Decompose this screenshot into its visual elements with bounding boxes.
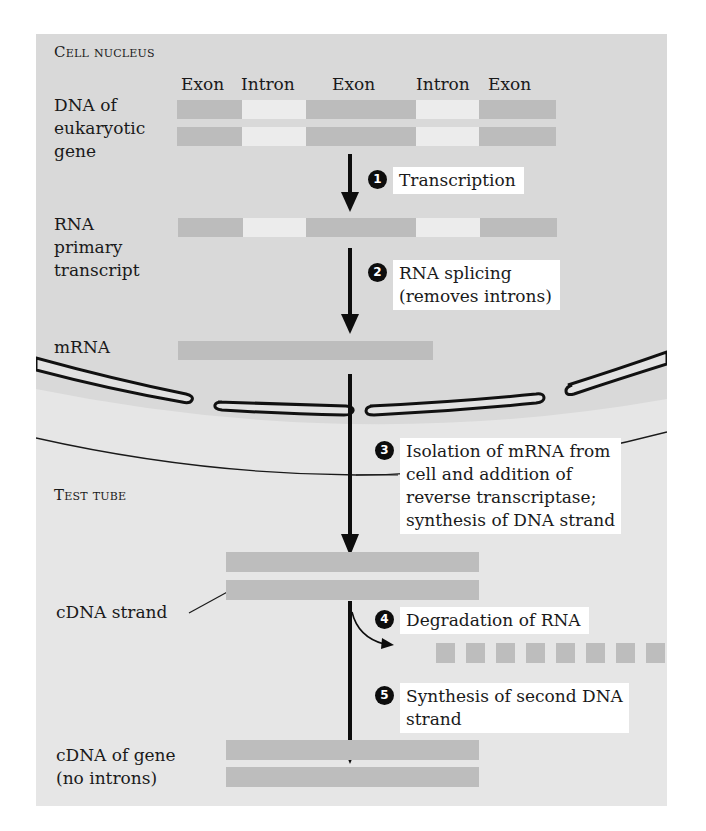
mrna-strand: [178, 341, 433, 360]
step-caption: RNA splicing (removes introns): [393, 260, 560, 310]
step-number-badge: 1: [368, 170, 387, 189]
mrna-label: mRNA: [54, 336, 110, 359]
step-number-badge: 3: [375, 441, 394, 460]
segment-label-intron-2: Intron: [416, 73, 470, 96]
dna-gene-label: DNA of eukaryotic gene: [54, 94, 145, 163]
segment-label-intron-1: Intron: [241, 73, 295, 96]
step-caption: Isolation of mRNA from cell and addition…: [400, 438, 621, 534]
step-2-rna-splicing: 2 RNA splicing (removes introns): [368, 260, 560, 310]
mrna-template-strand: [226, 552, 479, 572]
cdna-strand-label: cDNA strand: [56, 601, 167, 624]
cdna-double-strand-bottom: [226, 767, 479, 787]
step-3-reverse-transcription: 3 Isolation of mRNA from cell and additi…: [375, 438, 621, 534]
step-number-badge: 2: [368, 263, 387, 282]
rna-primary-label: RNA primary transcript: [54, 213, 140, 282]
step-4-rna-degradation: 4 Degradation of RNA: [375, 607, 589, 634]
step-caption: Degradation of RNA: [400, 607, 589, 634]
segment-label-exon-3: Exon: [488, 73, 531, 96]
cdna-first-strand: [226, 580, 479, 600]
cdna-gene-label: cDNA of gene (no introns): [56, 744, 176, 790]
test-tube-label: Test tube: [54, 484, 126, 507]
segment-label-exon-2: Exon: [332, 73, 375, 96]
step-number-badge: 5: [375, 686, 394, 705]
segment-label-exon-1: Exon: [181, 73, 224, 96]
step-caption: Synthesis of second DNA strand: [400, 683, 629, 733]
step-1-transcription: 1 Transcription: [368, 167, 524, 194]
step-5-second-strand-synthesis: 5 Synthesis of second DNA strand: [375, 683, 629, 733]
nucleus-label: Cell nucleus: [54, 41, 155, 64]
step-number-badge: 4: [375, 610, 394, 629]
cdna-double-strand-top: [226, 740, 479, 760]
diagram-panel: Cell nucleus Test tube Exon Intron Exon …: [36, 34, 667, 806]
step-caption: Transcription: [393, 167, 524, 194]
